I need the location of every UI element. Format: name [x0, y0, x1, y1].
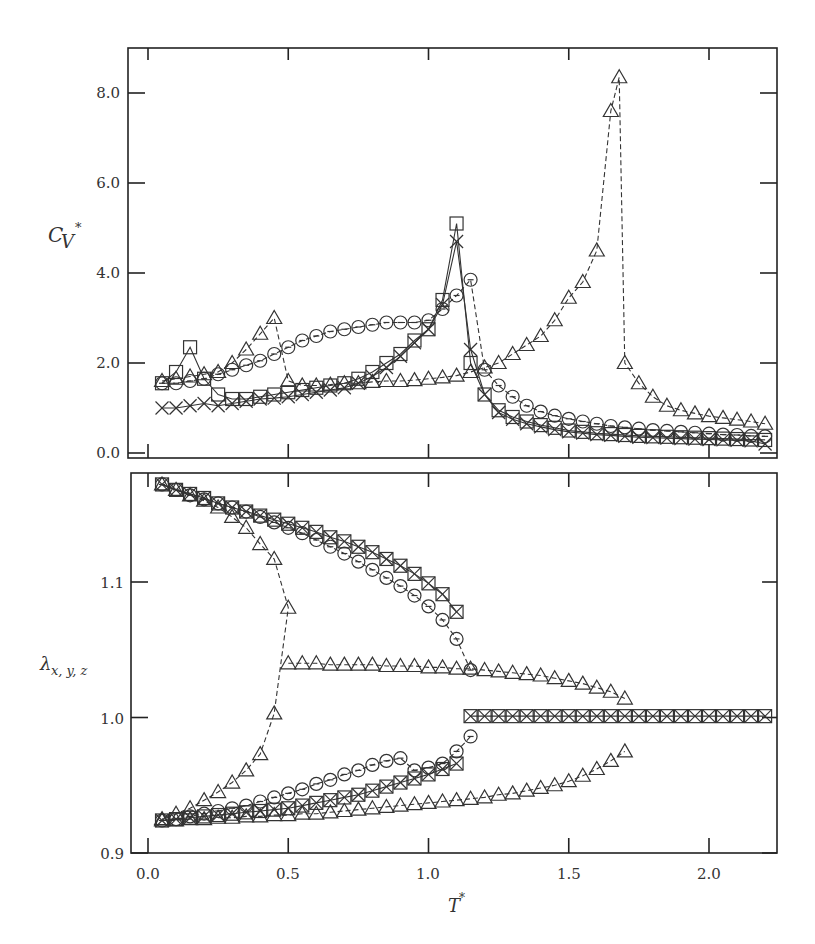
- xtick-label-0.0: 0.0: [136, 865, 160, 883]
- triangle-marker: [239, 763, 254, 776]
- triangle-marker: [477, 663, 492, 676]
- triangle-marker: [561, 290, 576, 303]
- series-line: [288, 663, 625, 698]
- triangle-marker: [758, 416, 773, 429]
- triangle-marker: [253, 537, 268, 550]
- triangle-marker: [281, 374, 296, 387]
- xtick-label-2.0: 2.0: [697, 865, 721, 883]
- triangle-marker: [491, 664, 506, 677]
- triangle-marker: [603, 684, 618, 697]
- cv-label-sub: V: [61, 231, 76, 252]
- x-axis-label: T *: [448, 891, 465, 916]
- xtick-label-0.5: 0.5: [276, 865, 300, 883]
- triangle-marker: [645, 389, 660, 402]
- triangle-marker: [575, 768, 590, 781]
- xtick-label-1.5: 1.5: [557, 865, 581, 883]
- upper-ytick-label-8: 8.0: [96, 84, 120, 102]
- triangle-marker: [309, 656, 324, 669]
- triangle-marker: [379, 799, 394, 812]
- triangle-marker: [589, 761, 604, 774]
- triangle-marker: [379, 374, 394, 387]
- triangle-marker: [435, 660, 450, 673]
- triangle-marker: [533, 668, 548, 681]
- cv-label-sup: *: [75, 220, 82, 235]
- triangle-marker: [365, 657, 380, 670]
- series-square-high-T: [464, 710, 772, 723]
- lambda-label-sub: x, y, z: [51, 663, 87, 678]
- upper-plot-area: [155, 70, 773, 451]
- lower-y-axis-label: λ x, y, z: [39, 653, 87, 678]
- upper-y-axis-label: C V *: [48, 220, 82, 252]
- triangle-marker: [393, 374, 408, 387]
- triangle-marker: [281, 656, 296, 669]
- triangle-marker: [407, 659, 422, 672]
- lower-ytick-label-0.9: 0.9: [100, 845, 124, 863]
- triangle-marker: [631, 376, 646, 389]
- triangle-marker: [295, 806, 310, 819]
- triangle-marker: [547, 671, 562, 684]
- triangle-marker: [449, 368, 464, 381]
- series-cross: [156, 235, 772, 451]
- triangle-marker: [491, 787, 506, 800]
- series-line: [162, 484, 288, 819]
- lower-y-tick-labels: 1.1 1.0 0.9: [100, 574, 124, 863]
- lower-ytick-label-1.1: 1.1: [100, 574, 124, 592]
- upper-ytick-label-6: 6.0: [96, 174, 120, 192]
- triangle-marker: [435, 794, 450, 807]
- triangle-marker: [617, 691, 632, 704]
- triangle-marker: [337, 657, 352, 670]
- t-label-sup: *: [459, 891, 465, 905]
- lower-ytick-label-1.0: 1.0: [100, 710, 124, 728]
- triangle-marker: [673, 403, 688, 416]
- upper-y-tick-labels: 8.0 6.0 4.0 2.0 0.0: [96, 84, 120, 462]
- triangle-marker: [505, 347, 520, 360]
- triangle-marker: [421, 660, 436, 673]
- triangle-marker: [687, 406, 702, 419]
- triangle-marker: [659, 398, 674, 411]
- triangle-marker: [239, 809, 254, 822]
- series-square: [156, 217, 772, 446]
- series-triangle-middle: [281, 656, 633, 704]
- upper-ytick-label-0: 0.0: [96, 444, 120, 462]
- upper-ytick-label-2: 2.0: [96, 354, 120, 372]
- triangle-marker: [267, 311, 282, 324]
- series-line: [162, 484, 457, 611]
- triangle-marker: [267, 706, 282, 719]
- triangle-marker: [561, 774, 576, 787]
- lower-plot-area: [155, 477, 772, 827]
- triangle-marker: [505, 786, 520, 799]
- xtick-label-1.0: 1.0: [416, 865, 440, 883]
- triangle-marker: [295, 656, 310, 669]
- upper-ytick-label-4: 4.0: [96, 264, 120, 282]
- triangle-marker: [239, 520, 254, 533]
- triangle-marker: [702, 409, 717, 422]
- triangle-marker: [491, 356, 506, 369]
- triangle-marker: [589, 243, 604, 256]
- x-tick-labels: 0.0 0.5 1.0 1.5 2.0: [136, 865, 721, 883]
- series-line: [162, 77, 765, 424]
- series-triangle: [155, 70, 773, 430]
- figure: 8.0 6.0 4.0 2.0 0.0 C V * 1.1 1.0 0.9 λ …: [0, 0, 815, 944]
- triangle-marker: [351, 657, 366, 670]
- lambda-label-main: λ: [39, 653, 51, 674]
- triangle-marker: [393, 659, 408, 672]
